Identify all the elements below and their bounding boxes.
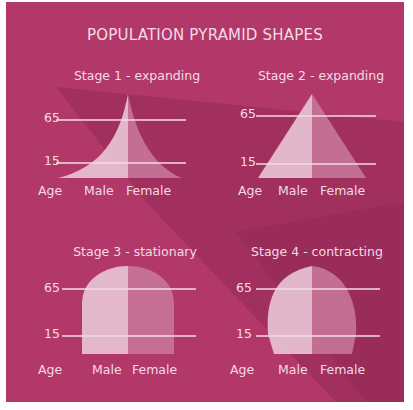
- tick-15: 15: [240, 154, 256, 169]
- panel-stage-4: Stage 4 - contracting 65 15 Age Male Fem…: [216, 244, 404, 394]
- age-label: Age: [238, 183, 262, 198]
- panel-stage-3: Stage 3 - stationary 65 15 Age Male Fema…: [20, 244, 210, 394]
- tick-15: 15: [44, 153, 60, 168]
- tick-15: 15: [236, 326, 252, 341]
- male-label: Male: [278, 362, 308, 377]
- male-label: Male: [278, 183, 308, 198]
- diagram-card: POPULATION PYRAMID SHAPES Stage 1 - expa…: [6, 2, 404, 402]
- female-label: Female: [132, 362, 177, 377]
- page-title: POPULATION PYRAMID SHAPES: [6, 26, 404, 44]
- male-label: Male: [84, 183, 114, 198]
- age-label: Age: [230, 362, 254, 377]
- tick-15: 15: [44, 326, 60, 341]
- tick-65: 65: [236, 280, 252, 295]
- female-label: Female: [320, 362, 365, 377]
- age-label: Age: [38, 362, 62, 377]
- male-label: Male: [92, 362, 122, 377]
- female-label: Female: [126, 183, 171, 198]
- age-label: Age: [38, 183, 62, 198]
- tick-65: 65: [44, 110, 60, 125]
- tick-65: 65: [240, 106, 256, 121]
- panel-stage-1: Stage 1 - expanding 65 15 Age Male Femal…: [20, 68, 210, 218]
- tick-65: 65: [44, 280, 60, 295]
- panel-stage-2: Stage 2 - expanding 65 15 Age Male Femal…: [216, 68, 404, 218]
- female-label: Female: [320, 183, 365, 198]
